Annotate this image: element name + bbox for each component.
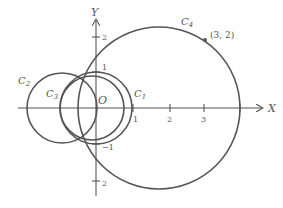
y-tick-label-minus-1: −1 (102, 143, 114, 152)
x-axis-label: X (267, 102, 277, 115)
y-tick-label-minus-2: 2 (102, 179, 107, 188)
label-c2: C2 (18, 75, 31, 88)
point-label: (3, 2) (210, 30, 234, 40)
y-tick-label-1: 1 (102, 63, 107, 72)
x-tick-label-3: 3 (201, 115, 206, 124)
y-tick-label-2: 2 (102, 33, 107, 42)
x-tick-label-2: 2 (167, 115, 172, 124)
label-c1: C1 (134, 88, 146, 101)
label-c3: C3 (46, 88, 59, 101)
label-c4: C4 (181, 16, 193, 29)
y-axis-label: Y (91, 6, 100, 19)
x-tick-label-1: 1 (133, 115, 138, 124)
point-marker (203, 38, 207, 42)
origin-label: O (98, 94, 107, 107)
coaxial-circles-diagram: X Y O 1 2 3 2 1 −1 2 C1 C2 C3 C4 (3, 2) (0, 0, 283, 208)
